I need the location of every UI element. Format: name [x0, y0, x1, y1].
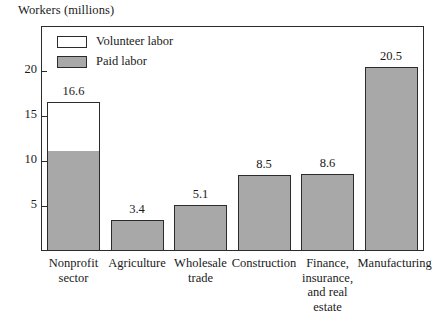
bar-value-label-0: 16.6 — [47, 84, 100, 99]
category-label-line: trade — [167, 271, 234, 286]
category-label-line: Nonprofit — [40, 256, 107, 271]
category-label-line: estate — [294, 300, 361, 315]
x-axis-category-label-3: Construction — [231, 256, 298, 271]
category-label-line: Manufacturing — [358, 256, 425, 271]
legend-label-paid: Paid labor — [96, 54, 147, 69]
y-axis-title: Workers (millions) — [18, 3, 114, 18]
bar-3 — [238, 175, 291, 252]
bar-value-label-2: 5.1 — [174, 187, 227, 202]
y-tick-mark — [41, 71, 47, 72]
x-axis-category-label-5: Manufacturing — [358, 256, 425, 271]
legend-item-volunteer-labor: Volunteer labor — [57, 33, 173, 50]
legend-swatch-paid-icon — [57, 56, 87, 68]
category-label-line: and real — [294, 285, 361, 300]
x-axis-category-label-0: Nonprofitsector — [40, 256, 107, 285]
bar-value-label-3: 8.5 — [238, 157, 291, 172]
bar-chart: Workers (millions) 5101520 Volunteer lab… — [0, 0, 444, 331]
bar-segment-paid — [48, 151, 99, 250]
legend-swatch-volunteer-icon — [57, 36, 87, 48]
bar-value-label-1: 3.4 — [111, 202, 164, 217]
y-tick-label: 20 — [0, 62, 37, 77]
category-label-line: Construction — [231, 256, 298, 271]
x-axis-category-label-1: Agriculture — [104, 256, 171, 271]
bar-1 — [111, 220, 164, 251]
x-axis-category-label-4: Finance,insurance,and realestate — [294, 256, 361, 314]
category-label-line: Wholesale — [167, 256, 234, 271]
bar-value-label-5: 20.5 — [365, 49, 418, 64]
category-label-line: Agriculture — [104, 256, 171, 271]
category-label-line: insurance, — [294, 271, 361, 286]
bar-segment-volunteer — [48, 103, 99, 153]
bar-2 — [174, 205, 227, 251]
legend-item-paid-labor: Paid labor — [57, 53, 173, 70]
bar-0 — [47, 102, 100, 251]
y-tick-label: 10 — [0, 152, 37, 167]
bar-value-label-4: 8.6 — [301, 156, 354, 171]
y-tick-label: 5 — [0, 197, 37, 212]
y-tick-label: 15 — [0, 107, 37, 122]
chart-legend: Volunteer labor Paid labor — [57, 33, 173, 73]
bar-4 — [301, 174, 354, 251]
x-axis-category-label-2: Wholesaletrade — [167, 256, 234, 285]
category-label-line: sector — [40, 271, 107, 286]
legend-label-volunteer: Volunteer labor — [96, 34, 173, 49]
category-label-line: Finance, — [294, 256, 361, 271]
bar-5 — [365, 67, 418, 252]
